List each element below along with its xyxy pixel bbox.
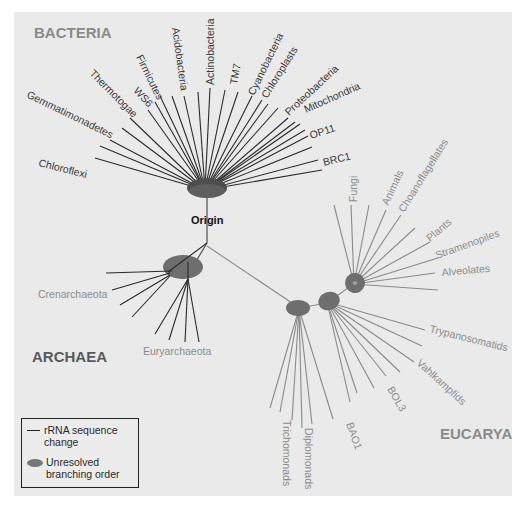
taxon-label-euryarchaeota: Euryarchaeota: [143, 345, 211, 357]
taxon-label-op11: OP11: [308, 121, 337, 141]
taxon-label-fungi: Fungi: [347, 176, 359, 202]
taxon-label-trypanosomatids: Trypanosomatids: [429, 322, 510, 353]
taxon-label-brc1: BRC1: [322, 149, 352, 167]
domain-label-eucarya: EUCARYA: [440, 425, 512, 442]
legend-row-unresolved: Unresolved branching order: [27, 456, 120, 480]
taxon-label-crenarchaeota: Crenarchaeota: [38, 288, 108, 300]
taxon-label-gemmatimonadetes: Gemmatimonadetes: [25, 88, 115, 140]
taxon-label-actinobacteria: Actinobacteria: [204, 18, 216, 85]
legend-ellipse-label-2: branching order: [46, 468, 120, 480]
taxon-label-trichomonads: Trichomonads: [281, 420, 293, 486]
taxon-label-tm7: TM7: [227, 62, 242, 85]
origin-label: Origin: [191, 214, 224, 226]
domain-label-bacteria: BACTERIA: [34, 24, 112, 41]
eucarya-node-ellipse-1: [286, 300, 310, 316]
taxon-label-chloroflexi: Chloroflexi: [38, 156, 89, 180]
legend-ellipse-label-1: Unresolved: [46, 456, 99, 468]
legend-line-label-2: change: [44, 436, 78, 448]
legend-row-rrna: rRNA sequence change: [27, 424, 118, 448]
legend: rRNA sequence change Unresolved branchin…: [21, 418, 139, 488]
taxon-label-bao1: BAO1: [344, 421, 365, 452]
ellipse-swatch-icon: [27, 459, 43, 467]
taxon-label-plants: Plants: [424, 216, 454, 244]
domain-label-archaea: ARCHAEA: [32, 348, 107, 365]
taxon-label-vahlkampfids: Vahlkampfids: [415, 357, 469, 408]
taxon-label-diplomonads: Diplomonads: [303, 428, 315, 489]
taxon-label-acidobacteria: Acidobacteria: [170, 27, 191, 92]
taxon-label-bol3: BOL3: [385, 384, 409, 413]
legend-line-label-1: rRNA sequence: [44, 424, 118, 436]
taxon-label-alveolates: Alveolates: [441, 262, 490, 278]
eucarya-branches: [207, 205, 438, 428]
line-swatch-icon: [27, 430, 40, 431]
